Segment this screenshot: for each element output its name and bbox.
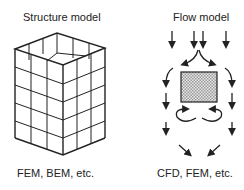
obstacle-block <box>181 72 217 102</box>
diagram-canvas <box>0 0 244 190</box>
mesh-box-icon <box>15 33 105 155</box>
flow-arrows-icon <box>166 31 232 154</box>
